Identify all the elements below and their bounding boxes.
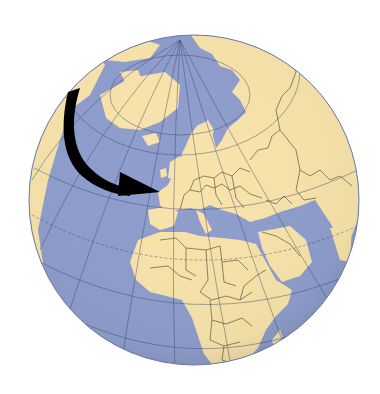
globe-svg bbox=[0, 0, 380, 394]
globe-shading bbox=[29, 35, 359, 365]
map-figure bbox=[0, 0, 380, 394]
